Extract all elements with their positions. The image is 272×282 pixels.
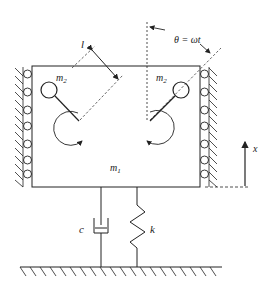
right-rollers: [201, 70, 209, 178]
ground: [20, 267, 222, 276]
left-rotor: [41, 82, 82, 145]
right-rotor-mass: [173, 82, 189, 98]
right-rotation-arrow-icon: [147, 110, 174, 144]
length-label: l: [81, 38, 84, 50]
left-rollers: [24, 70, 32, 178]
spring: [130, 187, 145, 267]
left-rotation-arrow-icon: [54, 111, 82, 145]
left-wall: [15, 67, 23, 187]
spring-label: k: [150, 223, 156, 235]
right-rotor: [147, 82, 189, 144]
damper: [94, 187, 108, 267]
right-rotor-mass-label: m2: [156, 72, 167, 85]
vibration-diagram: l θ = ωt m2 m2 m1 c k x: [0, 0, 272, 282]
right-wall: [209, 67, 217, 187]
main-mass-label: m1: [110, 162, 121, 175]
angle-arrow-icon: [150, 27, 165, 30]
displacement-label: x: [252, 143, 258, 154]
damper-label: c: [79, 223, 84, 235]
angle-label: θ = ωt: [174, 34, 201, 45]
length-dimension-arrow-icon: [92, 50, 118, 79]
left-dim-line-2: [80, 75, 123, 120]
theta-arrow-icon: [200, 44, 210, 53]
left-rotor-mass-label: m2: [56, 72, 67, 85]
left-rotor-mass: [41, 82, 57, 98]
